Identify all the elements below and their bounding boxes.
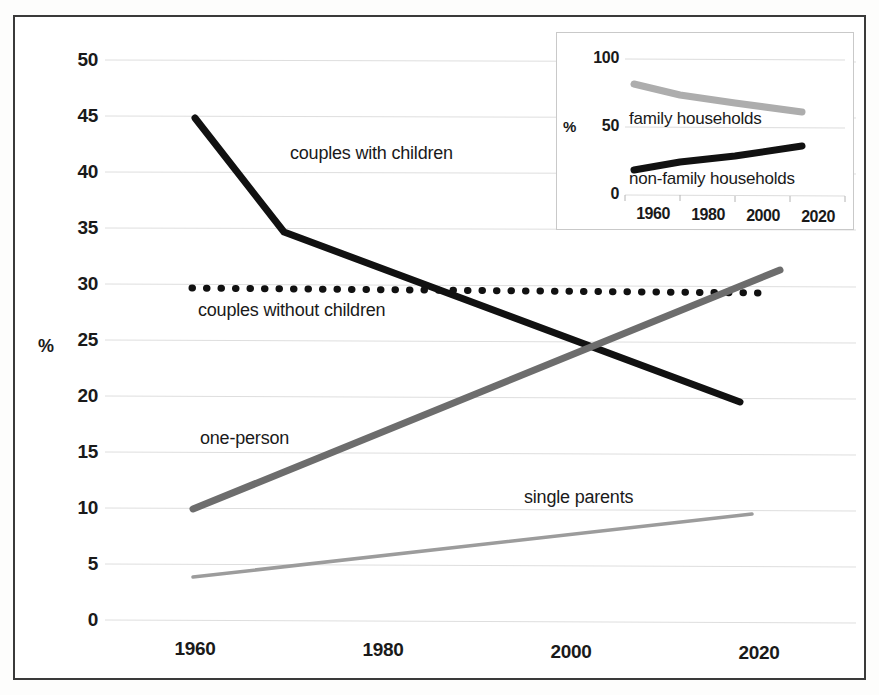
inset-xtick-1960: 1960	[626, 205, 680, 223]
main-xtick-1960: 1960	[155, 638, 235, 660]
inset-chart: % 100 50 0 1960 1980 2000 2020 family ho…	[556, 32, 854, 230]
main-xtick-1980: 1980	[343, 639, 423, 661]
main-ytick-50: 50	[52, 49, 98, 71]
series-single-parents	[193, 514, 752, 577]
label-one-person: one-person	[200, 428, 289, 449]
label-non-family-households: non-family households	[629, 169, 795, 189]
main-ytick-40: 40	[52, 161, 98, 183]
inset-y-axis-unit: %	[563, 118, 576, 135]
main-xtick-2020: 2020	[719, 642, 799, 664]
series-family-households	[634, 84, 802, 112]
inset-xtick-1980: 1980	[681, 206, 735, 224]
label-family-households: family households	[629, 109, 762, 129]
main-ytick-10: 10	[52, 497, 98, 519]
inset-ytick-50: 50	[579, 117, 619, 135]
main-ytick-5: 5	[52, 553, 98, 575]
label-couples-without-children: couples without children	[198, 300, 385, 321]
inset-ytick-100: 100	[579, 49, 619, 67]
main-ytick-45: 45	[52, 105, 98, 127]
figure-root: % 50 45 40 35 30 25 20 15 10 5 0 1960 19…	[0, 0, 879, 695]
series-non-family-households	[634, 146, 802, 170]
label-couples-with-children: couples with children	[290, 143, 453, 164]
main-xtick-2000: 2000	[531, 641, 611, 663]
main-ytick-0: 0	[52, 609, 98, 631]
inset-ytick-0: 0	[579, 185, 619, 203]
inset-xtick-2020: 2020	[791, 208, 845, 226]
inset-xtick-2000: 2000	[736, 207, 790, 225]
main-ytick-30: 30	[52, 273, 98, 295]
main-ytick-35: 35	[52, 217, 98, 239]
main-ytick-15: 15	[52, 441, 98, 463]
label-single-parents: single parents	[524, 487, 633, 508]
series-couples-without-children	[192, 288, 762, 293]
main-ytick-20: 20	[52, 385, 98, 407]
main-ytick-25: 25	[52, 329, 98, 351]
